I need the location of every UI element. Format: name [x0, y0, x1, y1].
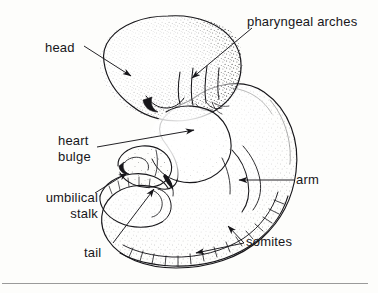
label-heart-bulge-line2: bulge — [58, 149, 91, 164]
label-umbilical-stalk-line1: umbilical — [46, 190, 98, 205]
embryo-head-highlight — [100, 17, 243, 121]
label-arm: arm — [296, 172, 319, 187]
label-tail: tail — [84, 245, 101, 260]
label-pharyngeal-arches: pharyngeal arches — [247, 14, 357, 29]
label-somites: somites — [246, 234, 292, 249]
label-heart-bulge: heartbulge — [58, 133, 91, 164]
embryo-body — [100, 16, 297, 268]
page-bottom-rule — [2, 283, 368, 284]
label-head: head — [45, 40, 75, 55]
label-umbilical-stalk-line2: stalk — [70, 206, 98, 221]
label-umbilical-stalk: umbilicalstalk — [17, 190, 98, 221]
label-heart-bulge-line1: heart — [58, 133, 89, 148]
figure-page: head pharyngeal arches heartbulge umbili… — [0, 0, 378, 293]
